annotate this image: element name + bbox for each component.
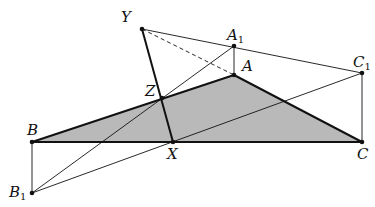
label-y: Y — [121, 8, 133, 26]
label-b: B — [26, 121, 38, 139]
point-b1 — [30, 191, 35, 196]
point-a1 — [232, 44, 237, 49]
label-a: A — [240, 57, 253, 75]
segment-y-a-dashed — [142, 29, 234, 75]
label-x: X — [166, 145, 179, 163]
label-c: C — [357, 145, 369, 163]
point-x — [171, 140, 176, 145]
label-b1: B1 — [8, 183, 26, 202]
label-z: Z — [144, 82, 156, 100]
point-c — [360, 140, 365, 145]
point-a — [232, 73, 237, 78]
point-b — [30, 140, 35, 145]
label-a1: A1 — [225, 26, 244, 45]
label-c1: C1 — [353, 53, 371, 72]
point-z — [160, 96, 165, 101]
triangle-abc — [32, 75, 362, 142]
point-y — [140, 27, 145, 32]
geometry-diagram: Y A1 A C1 Z B X C B1 — [0, 0, 375, 207]
